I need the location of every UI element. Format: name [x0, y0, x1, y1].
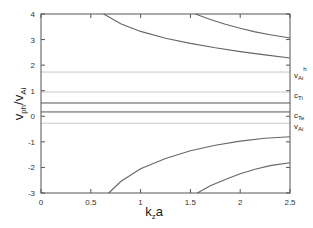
x-tick-label: 0.5: [85, 198, 97, 207]
y-tick-label: -2: [28, 163, 36, 172]
curve-upper-branch-2: [195, 14, 290, 38]
x-tick-label: 1.5: [185, 198, 197, 207]
line-annotations: vAihcTicTevAi: [294, 66, 307, 132]
y-tick-label: -1: [28, 138, 36, 147]
x-tick-label: 0: [39, 198, 44, 207]
x-tick-label: 1: [138, 198, 143, 207]
curve-lower-branch-2: [197, 163, 290, 193]
annotation-c-ti: cTi: [294, 91, 303, 101]
axis-ticks: 00.511.522.5-3-2-101234: [28, 10, 296, 207]
y-axis-title: vph/vAi: [11, 87, 28, 120]
annotation-v-ai: vAi: [294, 122, 303, 132]
y-tick-label: 4: [31, 10, 36, 19]
curve-lower-branch-1: [109, 137, 290, 193]
y-tick-label: 1: [31, 87, 36, 96]
y-tick-label: 3: [31, 36, 36, 45]
plot-frame: [41, 14, 290, 193]
annotation-c-te: cTe: [294, 111, 305, 121]
x-tick-label: 2.5: [284, 198, 296, 207]
reference-lines: [41, 72, 290, 123]
dispersion-chart: 00.511.522.5-3-2-101234 vAihcTicTevAi kz…: [0, 0, 313, 228]
x-tick-label: 2: [238, 198, 243, 207]
y-tick-label: 2: [31, 61, 36, 70]
curve-upper-branch-1: [104, 14, 290, 58]
x-axis-title: kza: [145, 204, 164, 221]
annotation-v-ai-h: vAih: [294, 66, 307, 81]
y-tick-label: -3: [28, 189, 36, 198]
y-tick-label: 0: [31, 112, 36, 121]
dispersion-curves: [104, 14, 290, 193]
